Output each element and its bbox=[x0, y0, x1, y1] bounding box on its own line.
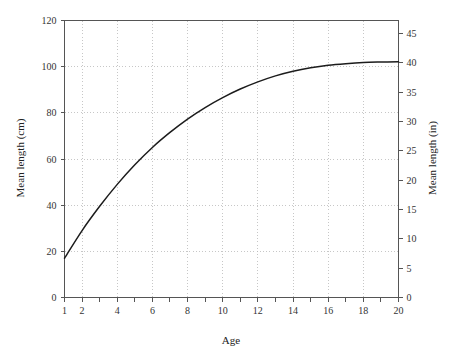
y-tick-label-right: 30 bbox=[407, 116, 417, 127]
y-tick-label-left: 80 bbox=[47, 107, 57, 118]
y-tick-label-left: 60 bbox=[47, 154, 57, 165]
x-tick-label: 2 bbox=[80, 305, 85, 316]
x-tick-label: 14 bbox=[288, 305, 298, 316]
y-tick-label-right: 15 bbox=[407, 204, 417, 215]
chart-figure: 12468101214161820 020406080100120 051015… bbox=[0, 0, 450, 362]
growth-curve-chart: 12468101214161820 020406080100120 051015… bbox=[0, 0, 450, 362]
y-tick-label-right: 40 bbox=[407, 57, 417, 68]
y-tick-label-right: 45 bbox=[407, 28, 417, 39]
x-axis-title: Age bbox=[222, 334, 240, 346]
y-tick-label-left: 20 bbox=[47, 246, 57, 257]
x-tick-label: 10 bbox=[218, 305, 228, 316]
y-axis-right-title: Mean length (in) bbox=[426, 121, 439, 195]
x-tick-label: 1 bbox=[62, 305, 67, 316]
y-tick-label-right: 10 bbox=[407, 233, 417, 244]
y-tick-label-right: 25 bbox=[407, 145, 417, 156]
x-tick-label: 6 bbox=[150, 305, 155, 316]
x-tick-label: 16 bbox=[323, 305, 333, 316]
y-tick-label-right: 0 bbox=[407, 292, 412, 303]
y-tick-label-left: 120 bbox=[42, 15, 57, 26]
x-tick-label: 8 bbox=[185, 305, 190, 316]
y-axis-left-title: Mean length (cm) bbox=[14, 118, 27, 197]
y-tick-label-left: 100 bbox=[42, 61, 57, 72]
x-tick-label: 18 bbox=[358, 305, 368, 316]
y-tick-label-right: 35 bbox=[407, 87, 417, 98]
y-tick-label-right: 20 bbox=[407, 175, 417, 186]
y-tick-label-right: 5 bbox=[407, 263, 412, 274]
x-tick-label: 4 bbox=[115, 305, 120, 316]
x-tick-label: 12 bbox=[253, 305, 263, 316]
y-tick-label-left: 40 bbox=[47, 200, 57, 211]
y-tick-label-left: 0 bbox=[52, 292, 57, 303]
x-tick-label: 20 bbox=[394, 305, 404, 316]
